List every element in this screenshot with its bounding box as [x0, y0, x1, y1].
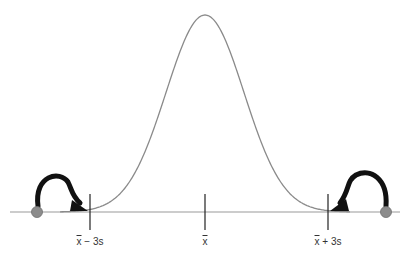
label-mean: x — [203, 236, 208, 247]
normal-distribution-diagram — [0, 0, 410, 258]
label-suffix: + 3s — [320, 236, 342, 247]
left-outlier-dot — [32, 207, 43, 218]
label-minus-3s: x − 3s — [77, 236, 104, 247]
right-outlier-arrow — [340, 173, 386, 206]
xbar-symbol: x — [203, 236, 208, 247]
label-suffix: − 3s — [82, 236, 104, 247]
label-plus-3s: x + 3s — [315, 236, 342, 247]
right-outlier-dot — [381, 207, 392, 218]
bell-curve — [60, 15, 350, 212]
